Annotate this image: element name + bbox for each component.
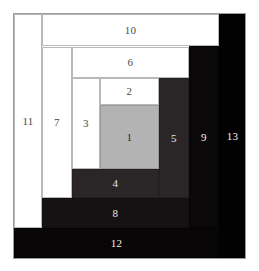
block-region-3: 3 bbox=[72, 78, 100, 169]
block-region-label: 1 bbox=[127, 132, 133, 143]
block-region-label: 11 bbox=[22, 116, 33, 127]
block-region-7: 7 bbox=[42, 47, 72, 198]
block-region-8: 8 bbox=[42, 198, 189, 228]
log-cabin-block: 12345678910111213 bbox=[0, 0, 259, 271]
block-region-label: 4 bbox=[113, 178, 119, 189]
block-region-13: 13 bbox=[219, 14, 246, 258]
block-region-1: 1 bbox=[100, 105, 159, 169]
block-region-label: 10 bbox=[125, 25, 137, 36]
block-region-label: 6 bbox=[128, 57, 134, 68]
block-region-label: 5 bbox=[171, 133, 177, 144]
block-region-label: 12 bbox=[111, 238, 123, 249]
block-region-12: 12 bbox=[14, 228, 219, 258]
block-region-4: 4 bbox=[72, 169, 159, 198]
block-region-9: 9 bbox=[189, 46, 219, 228]
block-region-label: 7 bbox=[54, 117, 60, 128]
block-region-5: 5 bbox=[159, 78, 189, 198]
block-region-label: 13 bbox=[227, 131, 239, 142]
block-region-label: 2 bbox=[127, 86, 133, 97]
block-region-6: 6 bbox=[72, 47, 189, 78]
block-region-label: 3 bbox=[83, 118, 89, 129]
block-region-10: 10 bbox=[42, 14, 219, 46]
block-region-label: 8 bbox=[113, 208, 119, 219]
block-region-2: 2 bbox=[100, 78, 159, 105]
block-region-label: 9 bbox=[201, 132, 207, 143]
block-region-11: 11 bbox=[14, 14, 42, 228]
